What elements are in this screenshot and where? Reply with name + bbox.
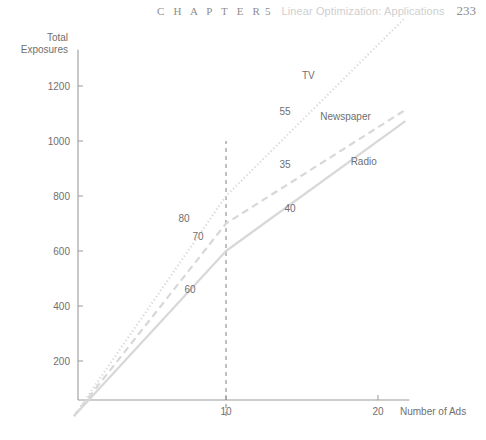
x-axis-title: Number of Ads xyxy=(400,406,466,417)
slope-annotation: 80 xyxy=(178,213,190,224)
y-axis-tick-label: 1000 xyxy=(48,136,71,147)
series-label-radio: Radio xyxy=(351,156,378,167)
y-axis-tick-label: 800 xyxy=(53,191,70,202)
series-label-tv: TV xyxy=(302,70,315,81)
slope-annotation: 55 xyxy=(279,106,291,117)
x-axis-tick-label: 20 xyxy=(372,406,384,417)
chart-series-curves xyxy=(74,18,405,416)
chart-svg: 200400600800100012001020TotalExposuresNu… xyxy=(0,0,486,440)
chart-axes: 200400600800100012001020TotalExposuresNu… xyxy=(21,32,466,417)
y-axis-tick-label: 600 xyxy=(53,246,70,257)
slope-annotation: 40 xyxy=(284,203,296,214)
y-axis-tick-label: 200 xyxy=(53,356,70,367)
slope-annotation: 35 xyxy=(279,159,291,170)
y-axis-tick-label: 400 xyxy=(53,301,70,312)
y-axis-title-line1: Total xyxy=(47,32,68,43)
series-curve-tv xyxy=(74,18,405,416)
slope-annotation: 60 xyxy=(184,284,196,295)
y-axis-title-line2: Exposures xyxy=(21,44,68,55)
slope-annotation: 70 xyxy=(192,231,204,242)
series-label-newspaper: Newspaper xyxy=(320,111,371,122)
exposure-chart: 200400600800100012001020TotalExposuresNu… xyxy=(0,0,486,440)
chart-annotations: TVNewspaperRadio807060553540 xyxy=(178,70,377,295)
y-axis-tick-label: 1200 xyxy=(48,81,71,92)
